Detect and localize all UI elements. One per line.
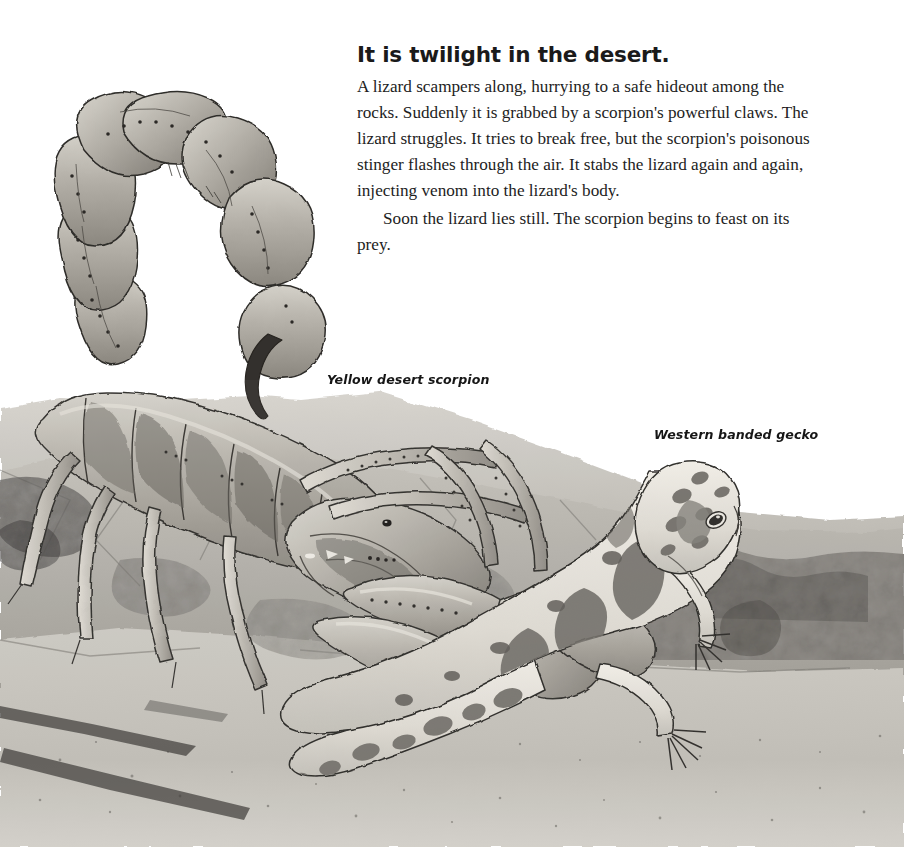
story-text-block: It is twilight in the desert. A lizard s… bbox=[357, 44, 825, 259]
paragraph-1: A lizard scampers along, hurrying to a s… bbox=[357, 74, 825, 205]
page-title: It is twilight in the desert. bbox=[357, 44, 825, 67]
scorpion-eye-left bbox=[382, 520, 391, 527]
caption-western-banded-gecko: Western banded gecko bbox=[654, 427, 818, 442]
scorpion-tail bbox=[54, 91, 326, 419]
caption-yellow-desert-scorpion: Yellow desert scorpion bbox=[327, 372, 490, 387]
book-page: It is twilight in the desert. A lizard s… bbox=[0, 0, 904, 847]
scorpion-eyes bbox=[382, 520, 391, 527]
paragraph-2: Soon the lizard lies still. The scorpion… bbox=[357, 206, 825, 258]
